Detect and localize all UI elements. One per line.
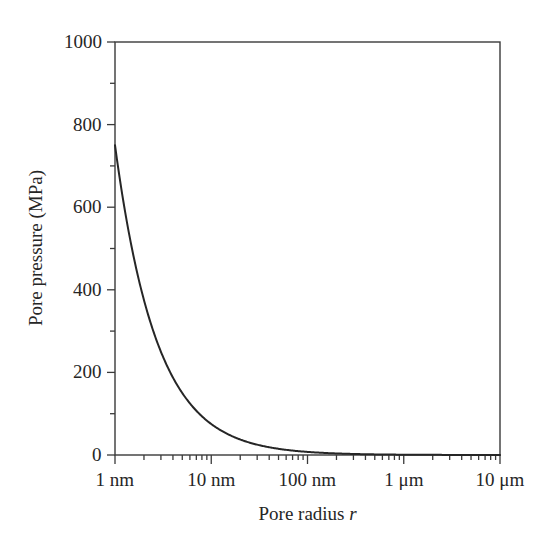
y-axis-tick-label: 600: [73, 196, 102, 218]
chart-canvas: Pore pressure (MPa): [0, 0, 553, 549]
x-axis-title-main: Pore radius: [259, 503, 350, 524]
x-axis-title-variable: r: [349, 503, 356, 524]
y-axis-tick-label: 0: [92, 444, 102, 466]
x-axis-tick-label: 100 nm: [279, 469, 337, 491]
x-axis-tick-label: 10 μm: [476, 469, 525, 491]
chart-figure: Pore pressure (MPa) 1 nm10 nm100 nm1 μm1…: [0, 0, 553, 549]
x-axis-title: Pore radius r: [259, 503, 357, 525]
x-axis-tick-label: 1 μm: [384, 469, 423, 491]
x-axis-tick-label: 1 nm: [96, 469, 135, 491]
y-axis-tick-label: 1000: [64, 31, 102, 53]
y-axis-tick-label: 800: [73, 114, 102, 136]
y-axis-tick-label: 200: [73, 361, 102, 383]
x-axis-tick-label: 10 nm: [187, 469, 235, 491]
y-axis-tick-label: 400: [73, 279, 102, 301]
figure-background: [0, 0, 553, 549]
